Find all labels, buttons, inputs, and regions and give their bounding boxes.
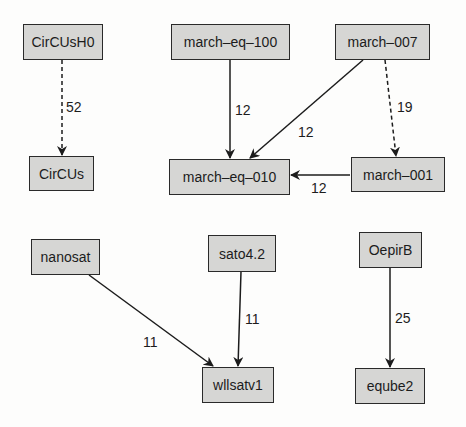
node-label: march–007 <box>347 34 417 50</box>
node-label: eqube2 <box>367 378 414 394</box>
node-march-001[interactable]: march–001 <box>351 157 445 192</box>
edge-label: 11 <box>245 312 260 326</box>
edge-label: 12 <box>235 103 251 117</box>
node-eqube2[interactable]: eqube2 <box>355 368 425 404</box>
node-label: march–001 <box>363 167 433 183</box>
edge-label: 25 <box>395 311 411 325</box>
node-label: wllsatv1 <box>213 377 263 393</box>
node-label: sato4.2 <box>219 246 265 262</box>
node-label: CirCUs <box>39 166 84 182</box>
edge-label: 52 <box>66 100 82 114</box>
node-label: OepirB <box>369 242 413 258</box>
node-label: CirCUsH0 <box>32 34 95 50</box>
node-label: march–eq–010 <box>183 169 276 185</box>
node-circush0[interactable]: CirCUsH0 <box>23 24 103 60</box>
edge-label: 12 <box>311 181 327 195</box>
node-sato4-2[interactable]: sato4.2 <box>208 235 276 272</box>
diagram-canvas: CirCUsH0CirCUsmarch–eq–100march–007march… <box>0 0 466 427</box>
node-nanosat[interactable]: nanosat <box>31 239 100 275</box>
edges-layer <box>0 0 466 427</box>
node-march-eq-010[interactable]: march–eq–010 <box>169 159 290 195</box>
node-march-eq-100[interactable]: march–eq–100 <box>171 24 290 60</box>
node-wllsatv1[interactable]: wllsatv1 <box>202 367 274 403</box>
edge-march-007-to-march-eq-010 <box>250 60 363 158</box>
edge-nanosat-to-wllsatv1 <box>89 275 213 366</box>
node-label: march–eq–100 <box>184 34 277 50</box>
edge-label: 11 <box>143 335 158 349</box>
edge-sato4.2-to-wllsatv1 <box>238 272 241 366</box>
node-march-007[interactable]: march–007 <box>335 24 430 60</box>
node-oepirb[interactable]: OepirB <box>359 232 422 268</box>
node-circus[interactable]: CirCUs <box>29 156 94 191</box>
node-label: nanosat <box>41 249 91 265</box>
edge-label: 19 <box>397 100 413 114</box>
edge-label: 12 <box>298 125 314 139</box>
edge-march-007-to-march-001 <box>385 60 396 156</box>
